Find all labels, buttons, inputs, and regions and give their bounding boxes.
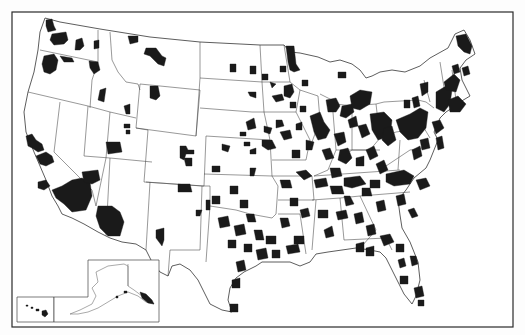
us-county-map	[0, 0, 525, 335]
map-figure	[0, 0, 525, 335]
hawaii-inset-box	[17, 297, 54, 322]
